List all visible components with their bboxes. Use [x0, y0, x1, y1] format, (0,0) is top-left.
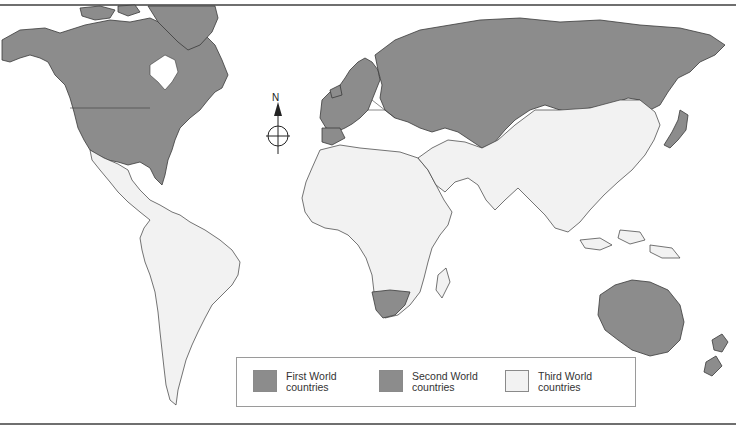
compass-rose: N: [258, 92, 298, 158]
legend-item-first-world: First World countries: [253, 370, 337, 393]
map-legend: First World countries Second World count…: [236, 357, 636, 407]
region-australia: [598, 280, 684, 356]
region-western-europe: [320, 58, 380, 132]
region-new-zealand: [712, 334, 728, 352]
third-world-swatch: [505, 370, 529, 392]
region-latin-america: [90, 150, 240, 405]
legend-item-second-world: Second World countries: [379, 370, 478, 393]
legend-item-third-world: Third World countries: [505, 370, 592, 393]
third-world-label: Third World countries: [538, 371, 592, 393]
first-world-swatch: [253, 370, 277, 392]
first-world-label: First World countries: [286, 371, 337, 393]
second-world-label: Second World countries: [412, 371, 478, 393]
region-japan: [664, 110, 688, 148]
north-label: N: [272, 92, 279, 103]
bottom-rule: [0, 423, 736, 425]
region-south-africa: [372, 290, 410, 318]
second-world-swatch: [379, 370, 403, 392]
